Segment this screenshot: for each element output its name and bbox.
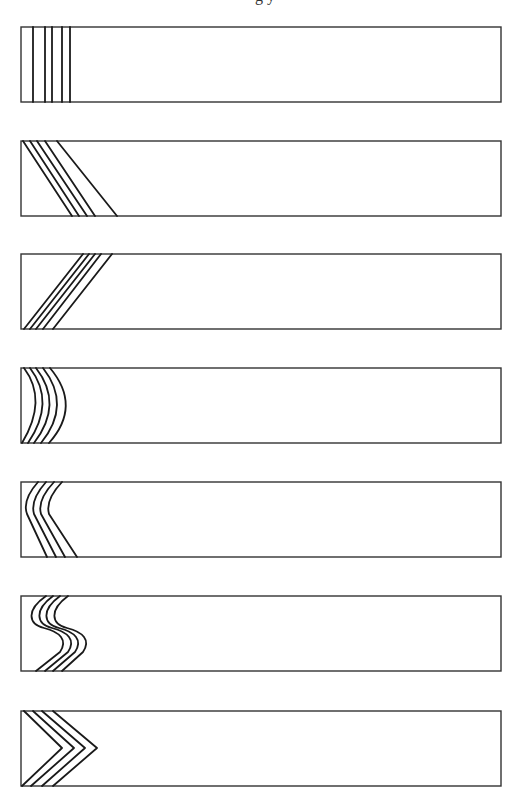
panel-box (21, 482, 501, 557)
figure-diagram (0, 0, 530, 806)
panel-box (21, 368, 501, 443)
panel-vertical-lines (21, 27, 501, 102)
panel-diagonal-down-right (21, 141, 501, 216)
panel-diagonal-up-right (21, 254, 501, 329)
panel-box (21, 596, 501, 671)
panel-box (21, 27, 501, 102)
panel-bent-lines (21, 482, 501, 557)
panel-box (21, 711, 501, 786)
panel-box (21, 141, 501, 216)
panel-chevrons (21, 711, 501, 786)
panel-s-curves (21, 596, 501, 671)
panel-convex-arcs (21, 368, 501, 443)
